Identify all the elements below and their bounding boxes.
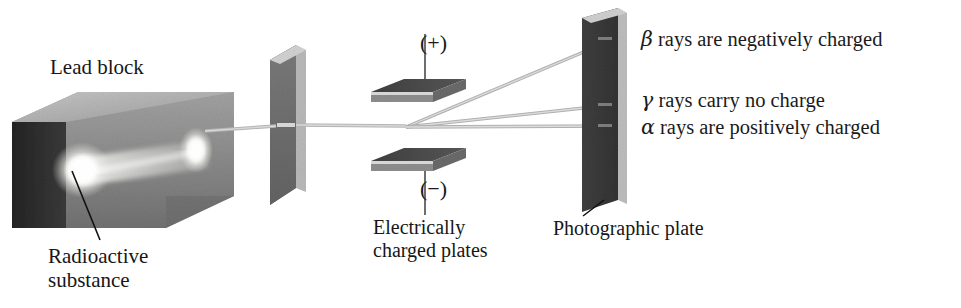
collimator-slit — [277, 123, 295, 127]
gamma-symbol: γ — [641, 88, 653, 112]
beta-symbol: β — [641, 27, 653, 51]
label-positive-polarity: (+) — [420, 30, 447, 56]
annotation-gamma-rays: γ rays carry no charge — [641, 88, 825, 112]
negative-plate — [371, 148, 466, 215]
label-photographic-plate: Photographic plate — [553, 217, 704, 240]
gamma-text: rays carry no charge — [653, 89, 825, 111]
label-radioactive-substance: Radioactive substance — [48, 245, 148, 293]
label-negative-polarity: (−) — [420, 176, 447, 202]
figure-canvas: Lead block Radioactive substance Electri… — [0, 0, 961, 308]
beam-alpha — [406, 126, 612, 127]
annotation-alpha-rays: α rays are positively charged — [641, 115, 880, 139]
label-lead-block: Lead block — [50, 56, 144, 80]
alpha-text: rays are positively charged — [655, 116, 880, 138]
beta-text: rays are negatively charged — [653, 28, 883, 50]
annotation-beta-rays: β rays are negatively charged — [641, 27, 882, 51]
label-electrically-charged-plates: Electrically charged plates — [373, 216, 488, 262]
beam-gamma — [406, 105, 612, 127]
alpha-symbol: α — [641, 115, 655, 139]
positive-plate — [371, 34, 466, 102]
